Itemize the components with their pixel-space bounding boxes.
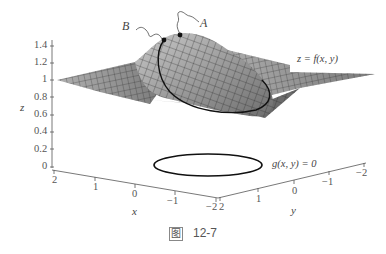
caption-prefix: 图: [169, 227, 183, 241]
point-b-leader: [136, 27, 162, 39]
z-tick-label: 0.4: [34, 126, 47, 137]
constraint-equation-label: g(x, y) = 0: [272, 159, 316, 170]
z-tick-label: 1.2: [34, 57, 47, 68]
y-tick-label: 0: [292, 186, 297, 197]
x-tick-label: 2: [52, 175, 57, 186]
constraint-ellipse: [154, 154, 262, 176]
x-tick-label: −1: [167, 196, 178, 207]
surface-mesh: [57, 33, 375, 118]
y-tick-label: −1: [322, 177, 333, 188]
x-tick-label: 1: [93, 182, 98, 193]
z-tick-label: 0.2: [34, 144, 47, 155]
x-axis-label: x: [132, 206, 137, 217]
z-tick-label: 1.4: [34, 40, 47, 51]
point-b-marker: [162, 38, 167, 43]
surface-equation-label: z = f(x, y): [297, 54, 338, 65]
z-tick-label: 0: [42, 161, 47, 172]
z-axis: [50, 40, 54, 168]
z-tick-label: 1: [42, 74, 47, 85]
y-axis-label: y: [291, 205, 296, 216]
y-tick-label: 1: [256, 194, 261, 205]
x-tick-label: 0: [132, 189, 137, 200]
point-a-leader: [177, 12, 199, 34]
surface-plot: [0, 0, 386, 254]
z-tick-label: 0.6: [34, 109, 47, 120]
y-tick-label: −2: [356, 168, 367, 179]
x-tick-label: −2: [206, 202, 217, 213]
caption-number: 12-7: [193, 226, 217, 240]
z-axis-label: z: [20, 102, 24, 113]
point-b-label: B: [122, 20, 129, 32]
z-tick-label: 0.8: [34, 92, 47, 103]
figure-3d-surface: B A z = f(x, y) g(x, y) = 0 1.4 1.2 1 0.…: [0, 0, 386, 254]
figure-caption: 图12-7: [0, 226, 386, 241]
y-tick-label: 2: [219, 202, 224, 213]
point-a-label: A: [200, 17, 207, 29]
